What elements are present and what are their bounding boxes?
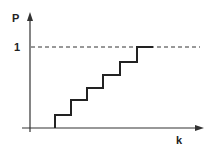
step-series bbox=[55, 47, 153, 128]
y-axis-label: P bbox=[12, 12, 19, 24]
x-axis-label: k bbox=[176, 134, 183, 146]
x-axis-arrow-icon bbox=[195, 125, 204, 131]
step-chart: P 1 k bbox=[0, 0, 212, 152]
y-tick-one: 1 bbox=[14, 41, 20, 53]
y-axis-arrow-icon bbox=[27, 12, 33, 21]
